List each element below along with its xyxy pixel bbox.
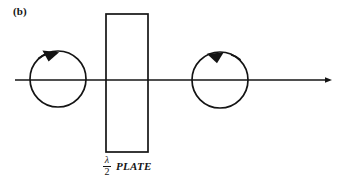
optics-diagram-canvas xyxy=(0,0,343,189)
half-wave-plate-rect xyxy=(106,14,148,152)
output-rotation-arrowhead-icon xyxy=(207,53,224,64)
panel-label: (b) xyxy=(13,6,27,17)
figure-panel-b: (b) λ 2 PLATE xyxy=(0,0,343,189)
propagation-axis xyxy=(15,77,332,83)
fraction-denominator: 2 xyxy=(104,167,111,178)
axis-arrowhead-icon xyxy=(325,77,332,83)
input-polarization-circle xyxy=(30,51,86,107)
half-wavelength-fraction: λ 2 xyxy=(103,155,111,177)
input-rotation-arrowhead-icon xyxy=(42,51,59,62)
fraction-numerator: λ xyxy=(104,155,110,166)
plate-word: PLATE xyxy=(116,161,152,172)
input-circular-polarization xyxy=(30,51,86,107)
output-rotation-arc xyxy=(231,55,241,60)
plate-caption: λ 2 PLATE xyxy=(103,155,152,177)
